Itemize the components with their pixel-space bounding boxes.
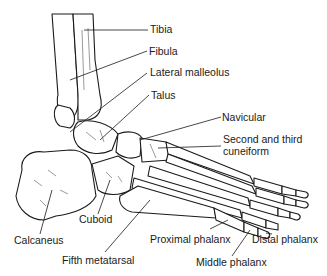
label-cuneiform-line2: cuneiform [223,146,269,157]
talus-bone [74,121,119,154]
label-tibia: Tibia [150,24,172,35]
label-fifth-metatarsal: Fifth metatarsal [62,255,134,266]
label-cuboid: Cuboid [79,214,112,225]
navicular-bone [116,132,142,158]
cuneiform-bones [140,138,170,162]
leader-middle-phalanx [232,230,250,256]
label-navicular: Navicular [222,112,266,123]
label-lateral-malleolus: Lateral malleolus [150,67,229,78]
label-calcaneus: Calcaneus [14,235,64,246]
label-talus: Talus [151,90,176,101]
label-middle-phalanx: Middle phalanx [196,257,267,268]
label-cuneiform-line1: Second and third [223,134,302,145]
foot-anatomy-diagram: Tibia Fibula Lateral malleolus Talus Nav… [0,0,327,276]
cuboid-bone [92,156,134,195]
label-fibula: Fibula [149,46,178,57]
leader-navicular [140,117,221,140]
label-distal-phalanx: Distal phalanx [252,234,318,245]
calcaneus-bone [16,150,96,220]
label-proximal-phalanx: Proximal phalanx [150,234,231,245]
